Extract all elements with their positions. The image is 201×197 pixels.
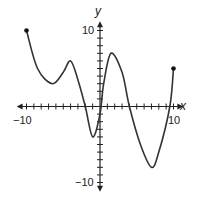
right-endpoint-dot bbox=[171, 66, 176, 71]
y-axis-label: y bbox=[94, 4, 102, 18]
left-endpoint-dot bbox=[24, 28, 29, 33]
y-max-tick-label: 10 bbox=[82, 24, 94, 36]
function-graph: x y −10 10 10 −10 bbox=[0, 0, 201, 197]
x-max-tick-label: 10 bbox=[168, 114, 180, 126]
x-axis-label: x bbox=[179, 99, 187, 113]
x-min-tick-label: −10 bbox=[13, 114, 32, 126]
y-min-tick-label: −10 bbox=[75, 176, 94, 188]
